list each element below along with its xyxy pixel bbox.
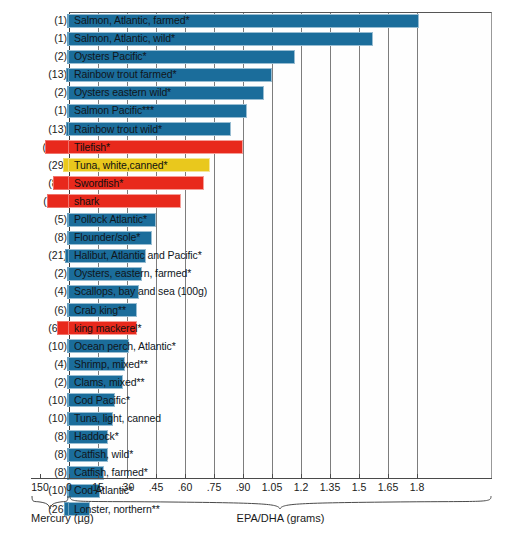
mercury-axis-tick-label: 150: [20, 481, 60, 494]
mercury-bar: [53, 176, 69, 190]
species-label: Salmon, Atlantic, farmed*: [74, 14, 189, 27]
species-label: Rainbow trout farmed*: [74, 68, 176, 81]
chart-row: (10)Cod Pacific*: [0, 392, 508, 410]
species-label: king mackerel*: [74, 322, 141, 335]
axis-tick: [214, 474, 215, 479]
species-label: Ocean perch, Atlantic*: [74, 340, 176, 353]
chart-row: (122)Tilefish*: [0, 139, 508, 157]
mercury-count-label: (1): [3, 31, 67, 46]
mercury-count-label: (29): [3, 158, 67, 173]
species-label: shark: [74, 195, 99, 208]
axis-tick-label: 1.8: [397, 481, 437, 494]
axis-tick: [330, 474, 331, 479]
mercury-count-label: (2): [3, 49, 67, 64]
epadha-axis-title: EPA/DHA (grams): [69, 511, 492, 525]
species-label: Halibut, Atlantic and Pacific*: [74, 249, 202, 262]
chart-row: (8)Catfish, wild*: [0, 446, 508, 464]
axis-tick: [98, 474, 99, 479]
species-label: Rainbow trout wild*: [74, 123, 162, 136]
species-label: Oysters, eastern, farmed*: [74, 267, 191, 280]
chart-row: (4)Scallops, bay and sea (100g): [0, 283, 508, 301]
species-label: Catfish, wild*: [74, 448, 133, 461]
mercury-count-label: (10): [3, 393, 67, 408]
mercury-count-label: (21): [3, 248, 67, 263]
species-label: Shrimp, mixed**: [74, 358, 148, 371]
mercury-count-label: (4): [3, 284, 67, 299]
chart-row: (81)Swordfish*: [0, 175, 508, 193]
mercury-bar: [57, 321, 69, 335]
mercury-bar: [47, 194, 69, 208]
chart-row: (61)king mackerel*: [0, 320, 508, 338]
species-label: Crab king**: [74, 304, 126, 317]
chart-row: (1)Salmon, Atlantic, farmed*: [0, 12, 508, 30]
mercury-count-label: (8): [3, 230, 67, 245]
mercury-count-label: (1): [3, 13, 67, 28]
species-label: Scallops, bay and sea (100g): [74, 285, 207, 298]
species-label: Pollock Atlantic*: [74, 213, 147, 226]
chart-row: (4)Shrimp, mixed**: [0, 356, 508, 374]
chart-row: (29)Tuna, white,canned*: [0, 157, 508, 175]
species-label: Haddock*: [74, 430, 119, 443]
chart-row: (6)Crab king**: [0, 302, 508, 320]
chart-row: (1)Salmon Pacific***: [0, 102, 508, 120]
mercury-count-label: (8): [3, 429, 67, 444]
mercury-count-label: (2): [3, 85, 67, 100]
axis-tick: [417, 474, 418, 479]
mercury-count-label: (4): [3, 357, 67, 372]
species-label: Swordfish*: [74, 177, 123, 190]
axis-tick: [156, 474, 157, 479]
chart-row: (2)Clams, mixed**: [0, 374, 508, 392]
species-label: Tilefish*: [74, 141, 110, 154]
chart-row: (5)Pollock Atlantic*: [0, 211, 508, 229]
axis-tick: [301, 474, 302, 479]
mercury-count-label: (2): [3, 266, 67, 281]
species-label: Salmon Pacific***: [74, 104, 154, 117]
mercury-count-label: (6): [3, 303, 67, 318]
mercury-brace: [31, 496, 69, 510]
mercury-bar: [45, 140, 69, 154]
chart-row: (2)Oysters Pacific*: [0, 48, 508, 66]
species-label: Cod Pacific*: [74, 394, 130, 407]
chart-row: (8)Flounder/sole*: [0, 229, 508, 247]
species-label: Clams, mixed**: [74, 376, 144, 389]
chart-row: (10)Tuna, light, canned: [0, 410, 508, 428]
mercury-axis-title: Mercury (µg): [31, 511, 69, 525]
species-label: Salmon, Atlantic, wild*: [74, 32, 175, 45]
species-label: Tuna, white,canned*: [74, 159, 167, 172]
mercury-count-label: (10): [3, 339, 67, 354]
mercury-count-label: (1): [3, 103, 67, 118]
species-label: Tuna, light, canned: [74, 412, 161, 425]
mercury-count-label: (2): [3, 375, 67, 390]
chart-row: (1)Salmon, Atlantic, wild*: [0, 30, 508, 48]
chart-row: (2)Oysters eastern wild*: [0, 84, 508, 102]
mercury-count-label: (13): [3, 67, 67, 82]
bar-rows: (1)Salmon, Atlantic, farmed*(1)Salmon, A…: [0, 12, 508, 519]
species-label: Oysters eastern wild*: [74, 86, 171, 99]
epadha-brace: [69, 496, 492, 510]
axis-tick: [69, 474, 70, 479]
chart-row: (13)Rainbow trout farmed*: [0, 66, 508, 84]
chart-row: (8)Haddock*: [0, 428, 508, 446]
mercury-axis-tick: [40, 474, 41, 479]
axis-tick: [185, 474, 186, 479]
species-label: Flounder/sole*: [74, 231, 140, 244]
mercury-count-label: (8): [3, 447, 67, 462]
mercury-count-label: (5): [3, 212, 67, 227]
fish-nutrient-mercury-chart: (1)Salmon, Atlantic, farmed*(1)Salmon, A…: [0, 0, 508, 540]
axis-tick: [272, 474, 273, 479]
axis-tick: [359, 474, 360, 479]
species-label: Oysters Pacific*: [74, 50, 147, 63]
chart-row: (13)Rainbow trout wild*: [0, 121, 508, 139]
axis-tick: [243, 474, 244, 479]
chart-row: (112)shark: [0, 193, 508, 211]
axis-tick: [127, 474, 128, 479]
mercury-count-label: (13): [3, 122, 67, 137]
axis-tick: [388, 474, 389, 479]
axis-line: [31, 478, 492, 479]
chart-row: (10)Ocean perch, Atlantic*: [0, 338, 508, 356]
x-axis: 015.30.45.60.75.901.051.21.351.51.651.81…: [0, 478, 508, 540]
chart-row: (21)Halibut, Atlantic and Pacific*: [0, 247, 508, 265]
mercury-count-label: (10): [3, 411, 67, 426]
chart-row: (2)Oysters, eastern, farmed*: [0, 265, 508, 283]
